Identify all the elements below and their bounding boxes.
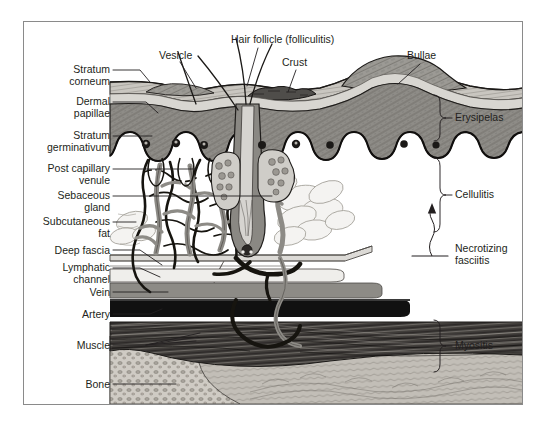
cellulitis-arrow-head (428, 203, 436, 214)
label-hair-follicle: Hair follicle (folliculitis) (231, 34, 334, 46)
label-post-capillary-venule: Post capillaryvenule (18, 163, 110, 186)
label-crust: Crust (282, 57, 307, 69)
label-myositis: Myositis (455, 340, 493, 352)
label-sebaceous-gland: Sebaceousgland (28, 190, 110, 213)
label-deep-fascia: Deep fascia (28, 245, 110, 257)
label-dermal-papillae: Dermalpapillae (28, 96, 110, 119)
label-vesicle: Vesicle (159, 50, 192, 62)
figure-stage: Stratumcorneum Dermalpapillae Stratumger… (0, 0, 546, 430)
label-stratum-germinativum: Stratumgerminativum (16, 130, 110, 153)
label-bullae: Bullae (407, 50, 436, 62)
label-bone: Bone (28, 379, 110, 391)
label-vein: Vein (28, 287, 110, 299)
label-stratum-corneum: Stratumcorneum (28, 64, 110, 87)
label-muscle: Muscle (28, 340, 110, 352)
label-artery: Artery (28, 309, 110, 321)
label-lymphatic-channel: Lymphaticchannel (28, 262, 110, 285)
label-cellulitis: Cellulitis (455, 189, 494, 201)
label-necrotizing-fasciitis: Necrotizingfasciitis (455, 243, 508, 266)
label-erysipelas: Erysipelas (455, 112, 503, 124)
label-subcutaneous-fat: Subcutaneousfat (16, 216, 110, 239)
